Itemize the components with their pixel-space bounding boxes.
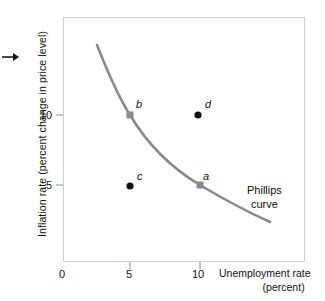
phillips-curve-annotation: Phillips curve bbox=[247, 183, 282, 211]
y-axis-title: Inflation rate (percent change in price … bbox=[36, 20, 48, 248]
data-point-label-d: d bbox=[205, 98, 211, 110]
plot-frame bbox=[63, 17, 305, 262]
x-axis-title-line1: Unemployment rate bbox=[219, 267, 311, 279]
x-tick-label-5: 5 bbox=[126, 268, 132, 280]
curve-annotation-line2: curve bbox=[247, 197, 282, 211]
phillips-curve-figure: Inflation rate (percent change in price … bbox=[0, 0, 325, 301]
data-point-label-c: c bbox=[137, 170, 143, 182]
data-point-label-a: a bbox=[203, 170, 209, 182]
y-tick-label-10: 10 bbox=[40, 109, 52, 121]
x-tick-label-10: 10 bbox=[192, 268, 204, 280]
x-tick-label-0: 0 bbox=[59, 268, 65, 280]
x-axis-title: Unemployment rate (percent) bbox=[219, 266, 311, 294]
x-axis-title-line2: (percent) bbox=[219, 280, 311, 294]
y-tick-label-5: 5 bbox=[46, 179, 52, 191]
data-point-label-b: b bbox=[136, 98, 142, 110]
right-arrow-icon bbox=[2, 50, 20, 64]
curve-annotation-line1: Phillips bbox=[247, 183, 282, 197]
